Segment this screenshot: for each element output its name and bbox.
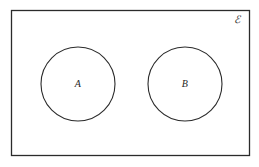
euler-diagram-canvas: ℰ A B (0, 0, 259, 167)
venn-diagram-graphic (0, 0, 259, 167)
set-b-label: B (182, 79, 188, 89)
universal-set-rectangle (12, 11, 250, 156)
universal-set-label: ℰ (234, 14, 240, 25)
set-a-label: A (75, 79, 81, 89)
